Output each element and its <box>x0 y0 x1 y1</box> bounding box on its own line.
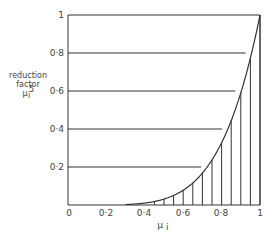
curve-mu5 <box>126 15 260 205</box>
plot-area <box>68 15 260 205</box>
y-tick: 0·2 <box>50 162 64 172</box>
ylabel-sub: i <box>28 91 30 100</box>
x-tick-labels: 0 0·2 0·4 0·6 0·8 1 <box>66 208 263 218</box>
ylabel-line3: μ <box>22 89 27 98</box>
gridlines <box>68 53 246 167</box>
ylabel-line1: reduction <box>9 71 47 80</box>
y-tick: 0·6 <box>50 86 65 96</box>
x-tick: 0·4 <box>137 208 152 218</box>
x-tick: 0·6 <box>176 208 191 218</box>
x-tick: 0 <box>66 208 72 218</box>
hatch-lines <box>154 15 260 205</box>
x-tick: 1 <box>257 208 263 218</box>
y-tick-labels: 1 0·8 0·6 0·4 0·2 <box>50 10 65 172</box>
chart: 1 0·8 0·6 0·4 0·2 0 0·2 0·4 0·6 0·8 1 re… <box>0 0 274 236</box>
y-tick: 1 <box>58 10 64 20</box>
x-tick: 0·8 <box>214 208 229 218</box>
y-tick: 0·4 <box>50 124 65 134</box>
y-tick: 0·8 <box>50 48 65 58</box>
y-axis-label: reduction factor μ 5 i <box>9 71 47 100</box>
xlabel: μ <box>157 220 163 230</box>
xlabel-sub: i <box>166 222 169 232</box>
x-axis-label: μ i <box>157 220 168 232</box>
x-tick: 0·2 <box>99 208 113 218</box>
